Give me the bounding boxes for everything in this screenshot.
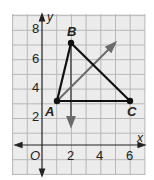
y-tick-8: 8	[32, 22, 39, 35]
x-tick-4: 4	[96, 149, 103, 162]
x-tick-2: 2	[67, 149, 74, 162]
x-axis-label: x	[137, 132, 143, 144]
point-b-label: B	[67, 25, 76, 38]
y-axis-label: y	[47, 11, 53, 23]
origin-label: O	[30, 149, 40, 162]
point-a	[54, 98, 60, 104]
x-tick-6: 6	[126, 149, 133, 162]
point-b	[68, 40, 74, 46]
y-tick-6: 6	[32, 52, 39, 65]
y-tick-2: 2	[32, 110, 39, 123]
point-a-label: A	[45, 105, 54, 118]
y-tick-4: 4	[32, 81, 39, 94]
point-c-label: C	[127, 105, 136, 118]
coordinate-plane: y x O 8 6 4 2 2 4 6 A B C	[0, 0, 154, 180]
